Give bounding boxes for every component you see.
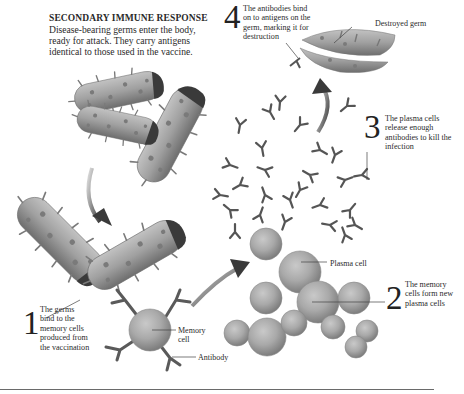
intro-text: Disease-bearing germs enter the body, re… bbox=[49, 24, 199, 57]
destroyed-germ-label: Destroyed germ bbox=[375, 19, 426, 28]
diagram-title: SECONDARY IMMUNE RESPONSE bbox=[49, 13, 208, 23]
antibody-label: Antibody bbox=[198, 353, 228, 362]
antibody-cloud bbox=[213, 96, 369, 243]
bottom-divider bbox=[0, 389, 434, 390]
plasma-cells bbox=[224, 228, 378, 358]
step-2-text: The memory cells form new plasma cells bbox=[405, 280, 460, 308]
step-4-number: 4 bbox=[224, 2, 241, 32]
memory-cell-label: Memory cell bbox=[178, 326, 218, 344]
plasma-cell-label: Plasma cell bbox=[330, 259, 367, 268]
step-1-number: 1 bbox=[23, 308, 40, 338]
step-1-text: The germs bind to the memory cells produ… bbox=[40, 305, 90, 352]
germ-illustration bbox=[0, 62, 216, 305]
step-4-text: The antibodies bind on to antigens on th… bbox=[243, 4, 313, 42]
step-2-number: 2 bbox=[386, 283, 403, 313]
step-3-text: The plasma cells release enough antibodi… bbox=[385, 114, 459, 152]
step-3-number: 3 bbox=[364, 112, 381, 142]
